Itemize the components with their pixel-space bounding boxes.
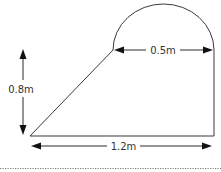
base-label: 1.2m xyxy=(111,141,137,152)
arrowhead-right-icon xyxy=(203,47,213,54)
arrowhead-down-icon xyxy=(20,125,27,135)
shape-outline xyxy=(30,50,214,136)
diameter-dimension: 0.5m xyxy=(114,45,213,56)
arrowhead-left-icon xyxy=(114,47,124,54)
arrowhead-right-icon xyxy=(202,143,212,150)
base-dimension: 1.2m xyxy=(31,141,212,152)
composite-shape-diagram: 0.5m 0.8m 1.2m xyxy=(0,0,221,172)
semicircle-arc xyxy=(113,4,214,50)
diameter-label: 0.5m xyxy=(150,45,176,56)
arrowhead-up-icon xyxy=(20,49,27,59)
arrowhead-left-icon xyxy=(31,143,41,150)
height-dimension: 0.8m xyxy=(8,49,34,135)
height-label: 0.8m xyxy=(8,84,34,95)
